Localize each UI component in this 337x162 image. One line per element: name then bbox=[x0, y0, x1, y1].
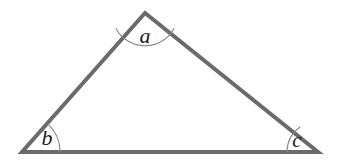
angle-label-c: c bbox=[292, 128, 302, 152]
triangle-figure-svg: a b c bbox=[0, 0, 337, 162]
angle-label-a: a bbox=[140, 23, 151, 48]
triangle-diagram-canvas: a b c bbox=[0, 0, 337, 162]
angle-label-b: b bbox=[42, 125, 53, 150]
